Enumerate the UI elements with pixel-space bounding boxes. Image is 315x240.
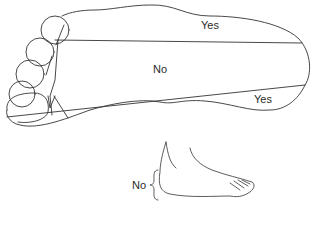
side-view-label: No [132,180,146,191]
region-label-lower: Yes [254,94,272,105]
side-foot-outline [159,142,254,197]
brace [150,170,158,200]
region-label-middle: No [153,64,167,75]
upper-divider [55,40,302,43]
toe-1 [7,93,49,123]
region-label-upper: Yes [201,20,219,31]
